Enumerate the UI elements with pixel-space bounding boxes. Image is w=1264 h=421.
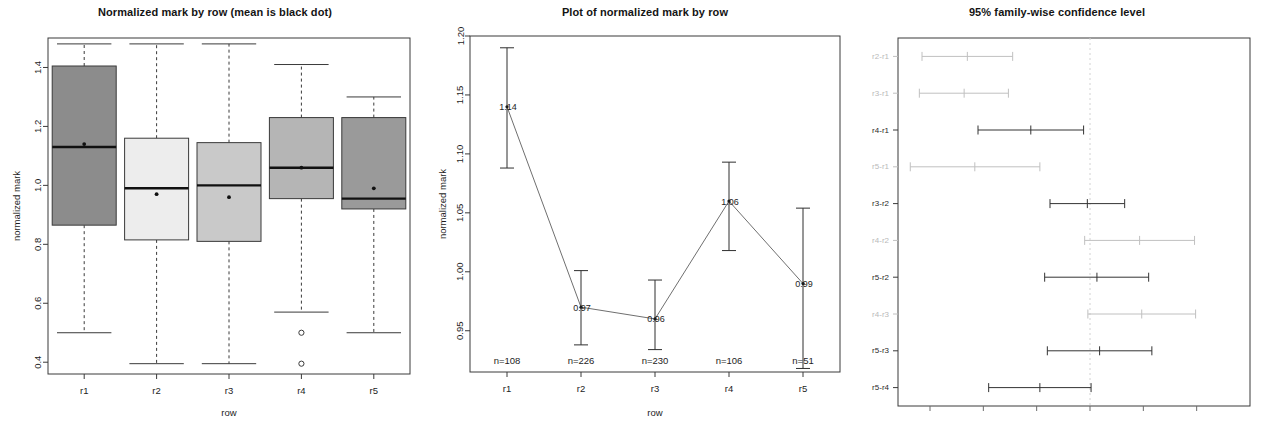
confidence-interval-row <box>1045 273 1149 282</box>
mean-value-label: 1.06 <box>721 197 739 207</box>
comparison-label: r3-r1 <box>872 89 889 98</box>
sample-size-label: n=226 <box>568 355 595 366</box>
sample-size-label: n=106 <box>716 355 743 366</box>
boxplot-box <box>342 97 406 333</box>
sample-size-label: n=230 <box>642 355 669 366</box>
comparison-label: r4-r3 <box>872 310 889 319</box>
y-tick-label: 1.05 <box>455 204 466 223</box>
y-tick-label: 1.2 <box>33 120 44 133</box>
boxplot-title: Normalized mark by row (mean is black do… <box>0 6 430 18</box>
confidence-title: 95% family-wise confidence level <box>850 6 1264 18</box>
y-tick-label: 0.4 <box>33 356 44 369</box>
comparison-label: r5-r4 <box>872 383 889 392</box>
confidence-interval-row <box>989 383 1091 392</box>
comparison-label: r4-r1 <box>872 126 889 135</box>
comparison-label: r3-r2 <box>872 199 889 208</box>
confidence-interval-row <box>1088 310 1196 319</box>
confidence-panel: 95% family-wise confidence level r2-r1r3… <box>850 0 1264 421</box>
y-axis-title: normalized mark <box>437 169 448 239</box>
x-axis-title: row <box>221 407 236 418</box>
y-tick-label: 1.00 <box>455 263 466 282</box>
sample-size-label: n=108 <box>494 355 521 366</box>
boxplot-box <box>125 44 189 364</box>
comparison-label: r5-r2 <box>872 273 889 282</box>
sample-size-label: n=51 <box>792 355 813 366</box>
x-axis-title: row <box>647 407 662 418</box>
x-tick-label: r5 <box>799 383 807 394</box>
y-tick-label: 1.0 <box>33 179 44 192</box>
confidence-interval-row <box>922 52 1013 61</box>
confidence-interval-row <box>910 162 1040 171</box>
boxplot-panel: Normalized mark by row (mean is black do… <box>0 0 430 421</box>
mean-dot <box>300 166 304 170</box>
confidence-interval-row <box>1085 236 1195 245</box>
boxplot-svg: 0.40.60.81.01.21.4normalized markr1r2r3r… <box>0 0 430 421</box>
lineplot-svg: 0.951.001.051.101.151.20normalized mark1… <box>430 0 860 421</box>
x-tick-label: r4 <box>297 385 305 396</box>
box-rect <box>342 118 406 209</box>
comparison-label: r4-r2 <box>872 236 889 245</box>
mean-value-label: 0.96 <box>647 314 665 324</box>
y-tick-label: 1.20 <box>455 27 466 46</box>
y-tick-label: 0.95 <box>455 321 466 340</box>
mean-value-label: 0.99 <box>795 279 813 289</box>
boxplot-box <box>52 44 116 333</box>
y-tick-label: 1.4 <box>33 61 44 74</box>
confidence-svg: r2-r1r3-r1r4-r1r5-r1r3-r2r4-r2r5-r2r4-r3… <box>850 0 1264 421</box>
boxplot-box <box>197 44 261 364</box>
x-tick-label: r2 <box>577 383 585 394</box>
mean-value-label: 0.97 <box>573 303 591 313</box>
comparison-label: r5-r1 <box>872 162 889 171</box>
comparison-label: r2-r1 <box>872 52 889 61</box>
confidence-interval-row <box>978 126 1084 135</box>
lineplot-panel: Plot of normalized mark by row 0.951.001… <box>430 0 860 421</box>
comparison-label: r5-r3 <box>872 346 889 355</box>
mean-dot <box>155 192 159 196</box>
x-tick-label: r1 <box>80 385 88 396</box>
mean-dot <box>372 186 376 190</box>
y-tick-label: 0.6 <box>33 297 44 310</box>
confidence-interval-row <box>919 89 1008 98</box>
outlier-point <box>299 330 304 335</box>
box-rect <box>269 118 333 199</box>
y-tick-label: 0.8 <box>33 238 44 251</box>
mean-value-label: 1.14 <box>499 102 517 112</box>
x-tick-label: r1 <box>503 383 511 394</box>
lineplot-title: Plot of normalized mark by row <box>430 6 860 18</box>
y-tick-label: 1.10 <box>455 145 466 164</box>
confidence-interval-row <box>1047 346 1152 355</box>
x-tick-label: r5 <box>370 385 378 396</box>
x-tick-label: r4 <box>725 383 733 394</box>
mean-dot <box>82 142 86 146</box>
box-rect <box>197 143 261 242</box>
boxplot-box <box>269 65 333 367</box>
figure-sheet: Normalized mark by row (mean is black do… <box>0 0 1264 421</box>
confidence-interval-row <box>1050 199 1125 208</box>
mean-dot <box>227 195 231 199</box>
x-tick-label: r2 <box>152 385 160 396</box>
y-axis-title: normalized mark <box>11 171 22 241</box>
outlier-point <box>299 361 304 366</box>
y-tick-label: 1.15 <box>455 86 466 105</box>
x-tick-label: r3 <box>651 383 659 394</box>
x-tick-label: r3 <box>225 385 233 396</box>
